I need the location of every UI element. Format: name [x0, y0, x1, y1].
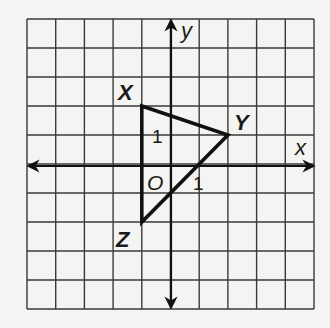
- vertex-label-y: Y: [234, 112, 249, 134]
- coordinate-grid: [0, 0, 330, 328]
- vertex-label-x: X: [118, 82, 133, 104]
- scale-label-x-unit: 1: [193, 174, 204, 193]
- scale-label-y-unit: 1: [152, 127, 163, 146]
- coordinate-plane-diagram: y x X Y Z O 1 1: [0, 0, 330, 328]
- origin-label: O: [147, 172, 163, 193]
- x-axis-label: x: [295, 137, 306, 159]
- vertex-label-z: Z: [116, 229, 129, 251]
- y-axis-label: y: [181, 20, 192, 42]
